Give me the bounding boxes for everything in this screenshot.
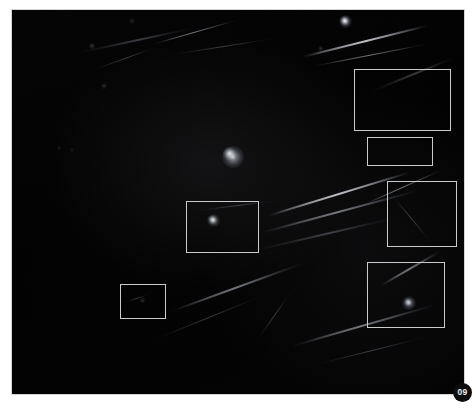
point-source (318, 46, 323, 51)
streak-feature (92, 46, 158, 71)
roi-box-roi-3 (387, 181, 457, 247)
streak-feature (312, 336, 429, 366)
point-source (129, 18, 135, 24)
diffuse-blob (339, 15, 352, 28)
streak-feature (152, 19, 239, 45)
streak-feature (152, 295, 264, 341)
streak-feature (77, 27, 195, 54)
diffuse-blob (222, 146, 244, 168)
streak-feature (302, 25, 429, 58)
roi-box-roi-1 (354, 69, 451, 131)
point-source (89, 43, 95, 49)
roi-box-roi-5 (186, 201, 259, 253)
streak-feature (172, 262, 304, 311)
point-source (223, 147, 236, 160)
roi-box-roi-2 (367, 137, 433, 166)
image-canvas (11, 9, 465, 395)
page-number-badge: 09 (453, 383, 472, 402)
point-source (101, 83, 107, 89)
roi-box-roi-6 (120, 284, 166, 319)
streak-feature (257, 291, 292, 341)
point-source (340, 16, 349, 25)
figure-root: 09 (0, 0, 476, 414)
point-source (57, 146, 61, 150)
point-source (70, 148, 74, 152)
streak-feature (167, 38, 276, 56)
streak-feature (312, 43, 430, 67)
roi-box-roi-4 (367, 262, 445, 328)
streak-feature (252, 216, 398, 251)
